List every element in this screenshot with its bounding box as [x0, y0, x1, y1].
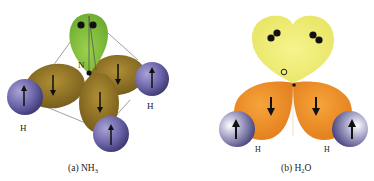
electron — [315, 36, 322, 43]
hydrogen-atom — [332, 111, 368, 147]
electron — [77, 21, 84, 28]
h-label: H — [20, 123, 27, 133]
caption-h2o: (b) H2O — [281, 163, 312, 174]
h-label: H — [147, 101, 154, 111]
nucleus-o — [292, 83, 296, 87]
caption-nh3: (a) NH3 — [68, 163, 98, 174]
h-label: H — [324, 145, 330, 154]
panel-nh3: N H H (a) NH3 — [7, 14, 169, 175]
electron — [89, 21, 96, 28]
nucleus-n — [87, 71, 92, 76]
orbital-diagram: N H H (a) NH3 O — [0, 0, 374, 181]
hydrogen-atom — [7, 79, 43, 115]
h-label: H — [255, 145, 261, 154]
electron — [273, 29, 280, 36]
central-atom-label: N — [78, 60, 85, 70]
electron — [309, 31, 316, 38]
lone-pair-lobes — [252, 16, 334, 83]
electron — [267, 34, 274, 41]
panel-h2o: O H H (b) H2O — [219, 16, 368, 174]
